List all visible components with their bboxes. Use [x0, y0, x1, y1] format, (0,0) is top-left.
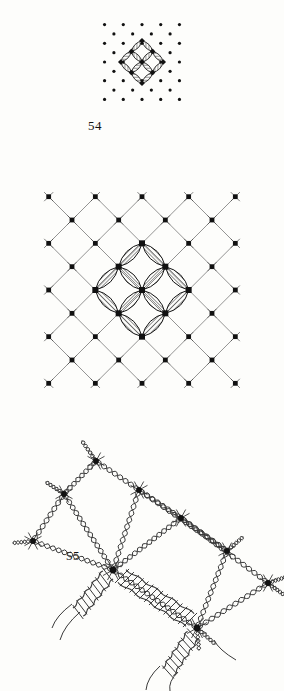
figure-54: 54: [0, 0, 284, 150]
rosette-motif-small: [118, 38, 167, 87]
plate-page: 54 55 56: [0, 0, 284, 691]
figure-55: 55: [0, 150, 284, 430]
figure-54-caption: 54: [88, 118, 102, 134]
knot-nodes: [25, 453, 277, 639]
figure-55-drawing: [0, 150, 284, 430]
figure-56-drawing: [0, 430, 284, 691]
twisted-thread-net: [13, 441, 284, 650]
figure-56: 56: [0, 430, 284, 691]
figure-54-drawing: [0, 0, 284, 150]
woven-bars: [52, 568, 236, 691]
